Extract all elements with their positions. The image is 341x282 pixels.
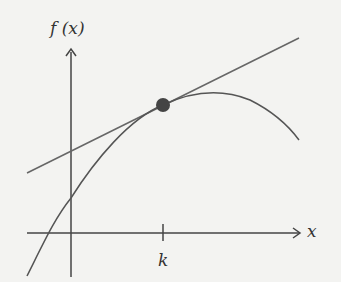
- k-tick-label: k: [158, 252, 168, 269]
- tangent-line-diagram: f (x) x k: [0, 0, 341, 282]
- curve-f: [27, 93, 299, 276]
- tangency-point: [156, 98, 170, 112]
- diagram-svg: [0, 0, 341, 282]
- x-axis-label: x: [307, 223, 317, 240]
- y-axis-label: f (x): [50, 20, 85, 37]
